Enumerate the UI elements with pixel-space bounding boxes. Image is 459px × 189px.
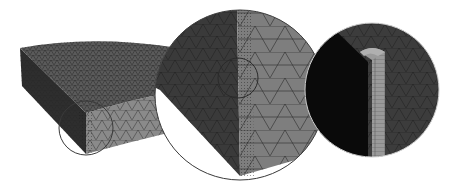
mesh-figure [0, 0, 459, 189]
zoom-level-1-inset [150, 0, 330, 189]
zoom-level-2-inset [300, 20, 445, 165]
slab-model [20, 41, 172, 154]
